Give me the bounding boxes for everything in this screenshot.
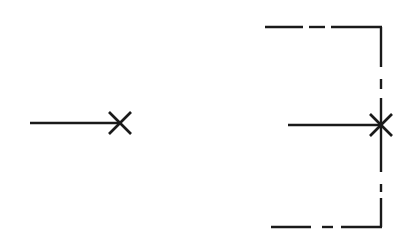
left-figure-point-load — [30, 112, 131, 134]
right-figure-boundary-load — [265, 27, 392, 227]
diagram-canvas — [0, 0, 418, 242]
